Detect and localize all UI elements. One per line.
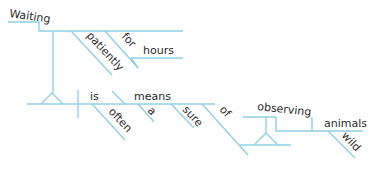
word-animals: animals <box>324 117 367 130</box>
for-extension <box>131 58 138 68</box>
gerund-phrase-subject: Waiting patiently for hours <box>8 7 183 93</box>
word-hours: hours <box>143 44 174 57</box>
word-often: often <box>106 105 135 135</box>
predicate-complement-slash <box>112 91 125 104</box>
word-of: of <box>217 103 235 120</box>
word-is: is <box>90 90 99 103</box>
word-a: a <box>145 104 159 118</box>
word-waiting: Waiting <box>9 7 52 26</box>
gerund-phrase-object: observing animals wild <box>240 100 367 158</box>
word-observing: observing <box>257 100 312 119</box>
sentence-diagram: Waiting patiently for hours is often mea… <box>0 0 381 171</box>
main-clause: is often means a sure of <box>27 90 248 155</box>
subject-pedestal <box>41 93 63 104</box>
word-wild: wild <box>339 129 364 154</box>
word-means: means <box>134 90 171 103</box>
object-pedestal <box>254 133 278 145</box>
word-for: for <box>119 30 139 50</box>
